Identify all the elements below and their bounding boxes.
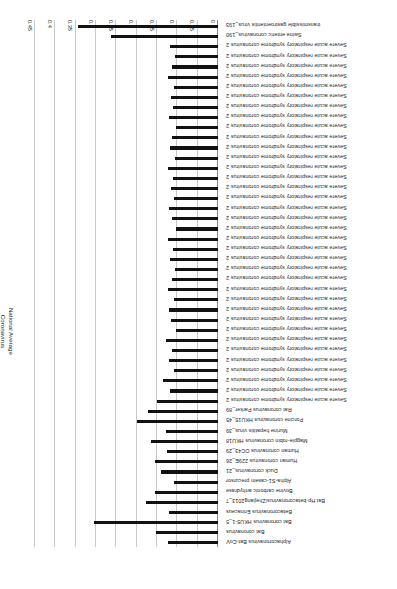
bar-row	[35, 112, 218, 122]
category-label: Alpha-S1-casein precursor	[226, 476, 291, 486]
bar	[171, 187, 218, 190]
category-label: Severe acute respiratory syndrome corona…	[226, 91, 347, 101]
bar	[171, 96, 218, 99]
y-axis-title-line2: Coronavirus	[0, 271, 7, 391]
bar	[170, 146, 218, 149]
bar	[176, 227, 218, 230]
bar-row	[35, 193, 218, 203]
bar-row	[35, 61, 218, 71]
bar	[166, 430, 218, 433]
bar-row	[35, 395, 218, 405]
bar	[172, 278, 218, 281]
bar	[169, 116, 218, 119]
category-label: Severe acute respiratory syndrome corona…	[226, 375, 347, 385]
bar-row	[35, 294, 218, 304]
bar	[173, 248, 218, 251]
category-label: Rat coronavirus Parker_89	[226, 405, 292, 415]
y-axis-title: National Average Coronavirus	[0, 271, 15, 391]
category-label: Human coronavirus OC43_29	[226, 446, 299, 456]
bar-row	[35, 91, 218, 101]
bar	[168, 76, 218, 79]
x-tick-label: 0	[210, 20, 216, 23]
bar-row	[35, 415, 218, 425]
category-label: Severe acute respiratory syndrome corona…	[226, 243, 347, 253]
bar	[169, 308, 218, 311]
category-label: Alphacoronavirus Bat-CoV	[226, 537, 291, 547]
bar-row	[35, 213, 218, 223]
bar-row	[35, 71, 218, 81]
bar	[163, 379, 218, 382]
category-label: Severe acute respiratory syndrome corona…	[226, 50, 347, 60]
bar-row	[35, 466, 218, 476]
bar	[111, 35, 218, 38]
bar	[172, 136, 218, 139]
bar	[172, 65, 218, 68]
bar-row	[35, 203, 218, 213]
bar-row	[35, 496, 218, 506]
category-label: Severe acute respiratory syndrome corona…	[226, 111, 347, 121]
category-label: Severe acute respiratory syndrome corona…	[226, 304, 347, 314]
category-label: Human coronavirus 229E_26	[226, 456, 297, 466]
x-tick-label: 0.1	[169, 20, 175, 28]
category-label: Bat coronavirus	[226, 527, 264, 537]
bar	[151, 440, 218, 443]
bar	[173, 177, 218, 180]
category-label: Severe acute respiratory syndrome corona…	[226, 263, 347, 273]
bar-row	[35, 41, 218, 51]
bar-row	[35, 81, 218, 91]
category-label: Severe acute respiratory syndrome corona…	[226, 344, 347, 354]
category-label: Bat coronavirus HKU5-1_5	[226, 517, 292, 527]
bar	[94, 521, 218, 524]
bar-row	[35, 284, 218, 294]
bar-row	[35, 446, 218, 456]
bar-row	[35, 31, 218, 41]
bar-row	[35, 304, 218, 314]
x-tick-label: 0.45	[27, 20, 33, 31]
category-label: Severe acute respiratory syndrome corona…	[226, 81, 347, 91]
bar	[172, 217, 218, 220]
bar	[175, 268, 218, 271]
category-label: Severe acute respiratory syndrome corona…	[226, 354, 347, 364]
category-label: Betacoronavirus Erinaceus	[226, 506, 292, 516]
bar	[167, 450, 218, 453]
bar	[170, 389, 218, 392]
bar	[174, 369, 218, 372]
bar	[169, 207, 218, 210]
bar	[174, 86, 218, 89]
bar	[155, 491, 218, 494]
category-label: Severe acute respiratory syndrome corona…	[226, 233, 347, 243]
category-label: Bat Hp-betacoronavirus/Zhejiang2013_7	[226, 496, 325, 506]
bar	[175, 55, 218, 58]
category-label: Severe acute respiratory syndrome corona…	[226, 71, 347, 81]
bar-row	[35, 233, 218, 243]
category-label: Severe acute respiratory syndrome corona…	[226, 162, 347, 172]
category-label: Severe acute respiratory syndrome corona…	[226, 253, 347, 263]
bar-rows	[35, 20, 218, 547]
bar-row	[35, 243, 218, 253]
bar-chart-figure: Alphacoronavirus Bat-CoVBat coronavirusB…	[0, 0, 397, 589]
bar-row	[35, 274, 218, 284]
y-axis-title-line1: National Average	[7, 271, 15, 391]
x-tick-label: 0.4	[47, 20, 53, 28]
bar	[174, 481, 218, 484]
x-tick-label: 0.25	[108, 20, 114, 31]
category-label: Severe acute respiratory syndrome corona…	[226, 334, 347, 344]
category-label: Bovine carbonic anhydrase	[226, 486, 293, 496]
x-tick-label: 0.05	[189, 20, 195, 31]
bar-row	[35, 426, 218, 436]
bar	[174, 298, 218, 301]
bar-row	[35, 456, 218, 466]
bar	[172, 349, 218, 352]
bar	[168, 541, 218, 544]
x-tick-label: 0.2	[128, 20, 134, 28]
category-label: Severe acute respiratory syndrome corona…	[226, 61, 347, 71]
category-label: Severe acute respiratory syndrome corona…	[226, 273, 347, 283]
category-label: Severe acute respiratory syndrome corona…	[226, 365, 347, 375]
bar-row	[35, 223, 218, 233]
bar	[156, 531, 218, 534]
bar-row	[35, 183, 218, 193]
x-tick-label: 0.3	[88, 20, 94, 28]
bar	[176, 126, 218, 129]
bar	[137, 420, 218, 423]
category-label: Severe acute respiratory syndrome corona…	[226, 395, 347, 405]
